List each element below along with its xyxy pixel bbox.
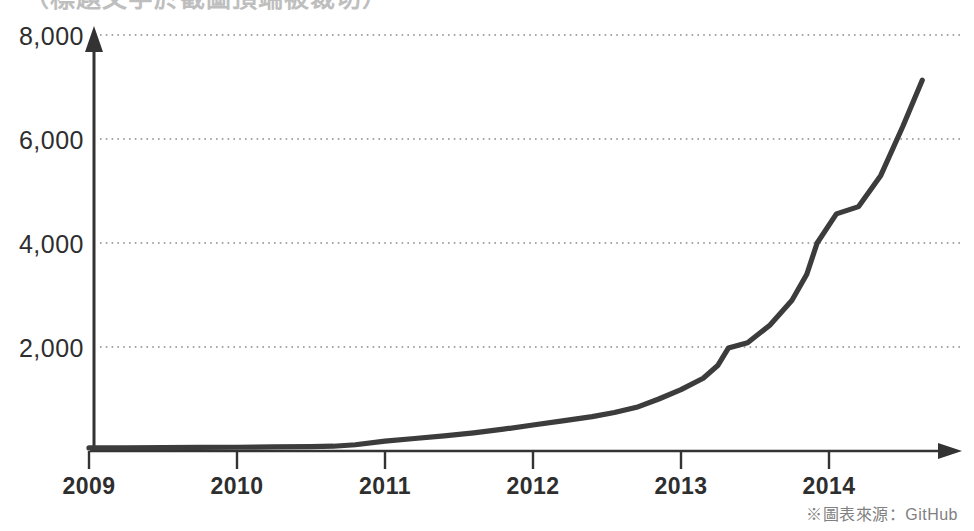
x-tick-label-2010: 2010 xyxy=(177,473,297,500)
line-chart-svg xyxy=(0,0,974,500)
y-tick-label-2000: 2,000 xyxy=(0,334,84,363)
x-tick-label-2014: 2014 xyxy=(769,473,889,500)
x-tick-label-2011: 2011 xyxy=(325,473,445,500)
y-tick-label-8000: 8,000 xyxy=(0,22,84,51)
plot-area: 8,000 6,000 4,000 2,000 2009 2010 2011 2… xyxy=(0,0,974,500)
x-axis-arrow-icon xyxy=(938,443,962,459)
y-tick-label-6000: 6,000 xyxy=(0,126,84,155)
data-series-line xyxy=(89,80,922,448)
x-tick-label-2013: 2013 xyxy=(621,473,741,500)
x-tick-label-2009: 2009 xyxy=(29,473,149,500)
y-axis-arrow-icon xyxy=(85,26,103,52)
gridlines xyxy=(100,35,960,347)
x-tick-label-2012: 2012 xyxy=(473,473,593,500)
y-tick-label-4000: 4,000 xyxy=(0,230,84,259)
source-attribution: ※圖表來源：GitHub xyxy=(806,501,958,525)
y-axis xyxy=(85,26,103,451)
chart-container: （標題文字於截圖頂端被裁切） xyxy=(0,0,974,531)
